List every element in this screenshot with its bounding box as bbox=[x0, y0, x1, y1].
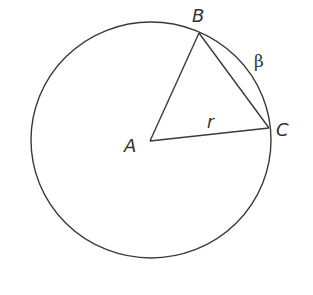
label-c: C bbox=[276, 119, 289, 140]
label-a: A bbox=[123, 135, 136, 156]
segment-ab bbox=[150, 33, 199, 141]
label-radius: r bbox=[207, 112, 215, 132]
label-arc-beta: β bbox=[254, 51, 264, 71]
circle-diagram: A B C r β bbox=[0, 0, 313, 295]
label-b: B bbox=[192, 5, 204, 26]
